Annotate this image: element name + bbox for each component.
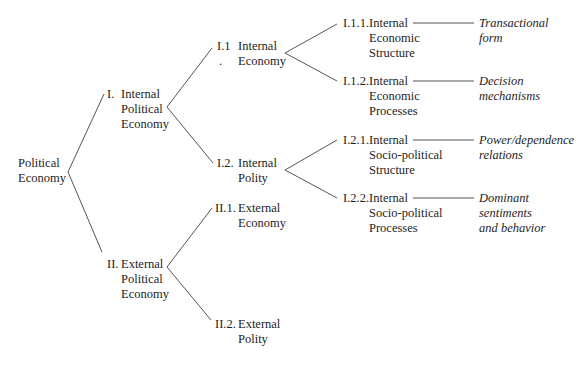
note-decision-mechanisms: Decision mechanisms <box>479 74 540 104</box>
node-number: I.1.2. <box>343 74 369 89</box>
node-line: Economic <box>369 31 420 46</box>
note-line: relations <box>479 148 574 163</box>
node-line: External <box>121 257 169 272</box>
connector-internal-polity <box>285 140 337 198</box>
node-line: Socio-political <box>369 148 443 163</box>
connector-internal-political-economy <box>167 48 213 163</box>
node-line: Economy <box>121 287 169 302</box>
note-line: Power/dependence <box>479 133 574 148</box>
node-line: Processes <box>369 221 443 236</box>
node-line: External <box>238 317 280 332</box>
node-number: II.1. <box>215 201 236 216</box>
node-line: Internal <box>238 156 277 171</box>
connector-external-political-economy <box>167 208 212 320</box>
note-power-dependence-relations: Power/dependence relations <box>479 133 574 163</box>
note-line: form <box>479 31 548 46</box>
connector-root <box>68 94 104 252</box>
node-number: I.1 <box>217 39 231 54</box>
connector-internal-economy <box>285 24 337 81</box>
note-dominant-sentiments: Dominant sentiments and behavior <box>479 191 545 236</box>
note-line: and behavior <box>479 221 545 236</box>
note-line: Dominant <box>479 191 545 206</box>
tree-connectors <box>0 0 581 366</box>
node-line: External <box>238 201 286 216</box>
node-number: II. <box>107 257 118 272</box>
node-number-dot: . <box>219 54 222 69</box>
node-number: I.2. <box>217 156 234 171</box>
node-line: Economy <box>121 117 169 132</box>
node-line: Internal <box>238 39 286 54</box>
node-line: Economy <box>238 216 286 231</box>
node-line: Internal <box>369 74 420 89</box>
node-line: Socio-political <box>369 206 443 221</box>
node-line: Political <box>121 102 169 117</box>
node-line: Polity <box>238 332 280 347</box>
note-line: Transactional <box>479 16 548 31</box>
node-line: Structure <box>369 46 420 61</box>
node-line: Internal <box>369 191 443 206</box>
node-line: Internal <box>369 16 420 31</box>
node-line: Economy <box>238 54 286 69</box>
node-line: Processes <box>369 104 420 119</box>
node-line: Political <box>121 272 169 287</box>
node-number: I. <box>107 87 114 102</box>
node-number: II.2. <box>215 317 236 332</box>
node-line: Economic <box>369 89 420 104</box>
note-line: mechanisms <box>479 89 540 104</box>
note-transactional-form: Transactional form <box>479 16 548 46</box>
node-line: Political <box>18 156 66 171</box>
node-number: I.1.1. <box>343 16 369 31</box>
note-line: sentiments <box>479 206 545 221</box>
node-number: I.2.1. <box>343 133 369 148</box>
node-line: Structure <box>369 163 443 178</box>
node-line: Internal <box>369 133 443 148</box>
note-line: Decision <box>479 74 540 89</box>
node-line: Polity <box>238 171 277 186</box>
node-line: Internal <box>121 87 169 102</box>
node-line: Economy <box>18 171 66 186</box>
node-number: I.2.2. <box>343 191 369 206</box>
